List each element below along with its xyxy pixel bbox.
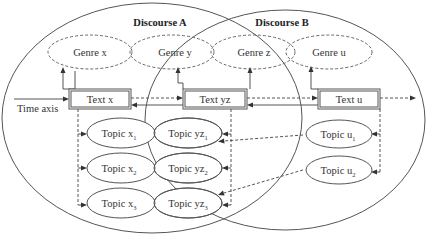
discourse-b-label: Discourse B	[255, 17, 308, 28]
genre-u-label: Genre u	[312, 47, 346, 58]
genre-z-label: Genre z	[238, 47, 271, 58]
genre-x-label: Genre x	[73, 47, 107, 58]
text-yz-label: Text yz	[199, 94, 230, 105]
text-u-label: Text u	[336, 94, 363, 105]
arrowhead-icon	[81, 203, 87, 208]
genre-y-label: Genre y	[158, 47, 192, 58]
arrowhead-icon	[131, 103, 137, 108]
arrowhead-icon	[61, 67, 66, 73]
arrow-topic-u2-to-topic-yz3	[224, 170, 303, 193]
arrowhead-icon	[222, 132, 228, 137]
text-u-topic-branches	[376, 134, 380, 172]
arrowhead-icon	[222, 166, 228, 171]
arrow-topic-u1-to-topic-yz1	[224, 135, 303, 141]
arrowhead-icon	[81, 132, 87, 137]
arrowhead-icon	[81, 166, 87, 171]
time-axis-label: Time axis	[17, 103, 58, 114]
arrowhead-icon	[247, 103, 253, 108]
discourse-diagram: Discourse A Discourse B Genre x Genre y …	[0, 0, 428, 243]
arrow-text-x-to-genre-x	[69, 71, 75, 89]
arrowhead-icon	[177, 96, 183, 101]
arrowhead-icon	[312, 96, 318, 101]
arrowhead-icon	[222, 203, 228, 208]
discourse-a-label: Discourse A	[133, 17, 187, 28]
arrow-text-yz-to-genre-y	[178, 73, 183, 89]
connector	[63, 73, 69, 89]
text-x-label: Text x	[87, 94, 114, 105]
arrowhead-icon	[410, 96, 416, 101]
arrow-text-u-to-genre-u	[311, 72, 318, 89]
arrowhead-icon	[63, 97, 69, 102]
arrowhead-icon	[218, 191, 225, 196]
